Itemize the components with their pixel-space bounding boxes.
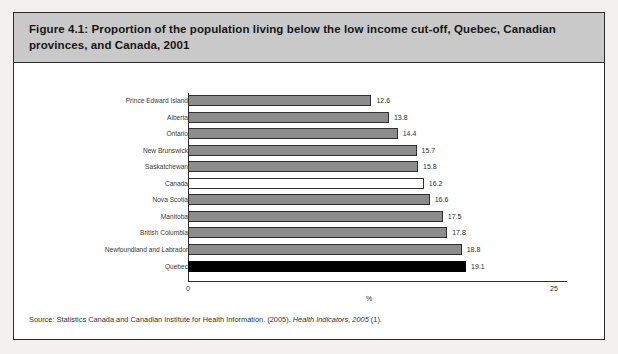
x-axis-line bbox=[188, 281, 567, 282]
bar-value-label: 17.8 bbox=[452, 227, 466, 238]
bar-row: 15.7 bbox=[188, 145, 552, 156]
bar-value-label: 16.2 bbox=[429, 178, 443, 189]
bar-value-label: 16.6 bbox=[435, 194, 449, 205]
category-label: Manitoba bbox=[28, 212, 188, 221]
bar-value-label: 17.5 bbox=[448, 211, 462, 222]
category-label: Prince Edward Island bbox=[28, 96, 188, 105]
bar bbox=[188, 261, 466, 272]
bar bbox=[188, 211, 443, 222]
category-label: British Columbia bbox=[28, 228, 188, 237]
bar-row: 16.6 bbox=[188, 194, 552, 205]
bar-row: 15.8 bbox=[188, 161, 552, 172]
bar-value-label: 18.8 bbox=[467, 244, 481, 255]
category-label: Alberta bbox=[28, 113, 188, 122]
bar bbox=[188, 244, 462, 255]
bar-row: 12.6 bbox=[188, 95, 552, 106]
bar-row: 17.8 bbox=[188, 227, 552, 238]
bar-row: 14.4 bbox=[188, 128, 552, 139]
source-note-prefix: Source: Statistics Canada and Canadian I… bbox=[29, 315, 293, 324]
bar-row: 17.5 bbox=[188, 211, 552, 222]
bar bbox=[188, 145, 417, 156]
chart-axes-area: 12.613.814.415.715.816.216.617.517.818.8… bbox=[188, 63, 604, 311]
source-note: Source: Statistics Canada and Canadian I… bbox=[29, 314, 592, 325]
bar-value-label: 12.6 bbox=[376, 95, 390, 106]
bar-row: 18.8 bbox=[188, 244, 552, 255]
source-note-suffix: (1). bbox=[369, 315, 382, 324]
bar bbox=[188, 194, 430, 205]
page-title: Figure 4.1: Proportion of the population… bbox=[29, 21, 592, 53]
category-label: Quebec bbox=[28, 262, 188, 271]
bar-row: 19.1 bbox=[188, 261, 552, 272]
bar-value-label: 13.8 bbox=[394, 112, 408, 123]
category-label-column: Prince Edward IslandAlbertaOntarioNew Br… bbox=[28, 63, 188, 311]
bar bbox=[188, 112, 389, 123]
category-label: Nova Scotia bbox=[28, 195, 188, 204]
chart-plot-region: Prince Edward IslandAlbertaOntarioNew Br… bbox=[14, 63, 604, 311]
category-label: New Brunswick bbox=[28, 146, 188, 155]
category-label: Ontario bbox=[28, 129, 188, 138]
bar-row: 16.2 bbox=[188, 178, 552, 189]
bar bbox=[188, 178, 424, 189]
category-label: Newfoundland and Labrador bbox=[28, 245, 188, 254]
bar-value-label: 15.7 bbox=[422, 145, 436, 156]
bar bbox=[188, 95, 371, 106]
category-label: Saskatchewan bbox=[28, 162, 188, 171]
bar bbox=[188, 128, 398, 139]
x-axis-tick-label: 25 bbox=[550, 285, 558, 292]
bar-value-label: 15.8 bbox=[423, 161, 437, 172]
bar-row: 13.8 bbox=[188, 112, 552, 123]
bar bbox=[188, 161, 418, 172]
figure-title-band: Figure 4.1: Proportion of the population… bbox=[14, 13, 604, 63]
x-axis-title: % bbox=[366, 295, 372, 302]
category-label: Canada bbox=[28, 179, 188, 188]
bar-value-label: 14.4 bbox=[403, 128, 417, 139]
source-note-publication: Health Indicators, 2005 bbox=[293, 315, 369, 324]
bar bbox=[188, 227, 447, 238]
bar-value-label: 19.1 bbox=[471, 261, 485, 272]
figure-container: Figure 4.1: Proportion of the population… bbox=[13, 12, 605, 340]
x-axis-tick-label: 0 bbox=[186, 285, 190, 292]
